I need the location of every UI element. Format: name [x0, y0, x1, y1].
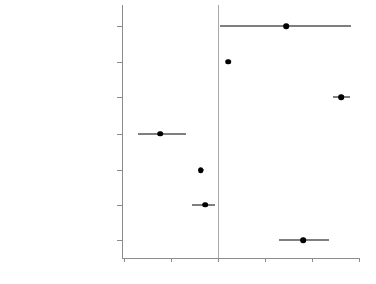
y-axis-tick-mark: [117, 170, 122, 171]
estimate-point-marker: [338, 94, 344, 100]
y-axis-tick-mark: [117, 97, 122, 98]
estimate-point-marker: [203, 202, 209, 208]
x-axis-tick-mark: [171, 258, 172, 262]
x-axis-tick-mark: [218, 258, 219, 262]
y-axis-tick-mark: [117, 62, 122, 63]
estimate-point-marker: [198, 168, 204, 174]
estimate-point-marker: [301, 237, 307, 243]
zero-reference-line: [218, 5, 219, 258]
estimate-point-marker: [225, 59, 231, 65]
y-axis-tick-mark: [117, 205, 122, 206]
x-axis-tick-mark: [265, 258, 266, 262]
y-axis-tick-mark: [117, 26, 122, 27]
estimate-point-marker: [157, 131, 163, 137]
coefficient-plot: [0, 0, 376, 284]
y-axis-tick-mark: [117, 240, 122, 241]
x-axis-tick-mark: [312, 258, 313, 262]
x-axis-tick-mark: [359, 258, 360, 262]
x-axis-line: [122, 258, 359, 259]
y-axis-line: [122, 5, 123, 258]
y-axis-tick-mark: [117, 134, 122, 135]
estimate-point-marker: [284, 23, 290, 29]
x-axis-tick-mark: [124, 258, 125, 262]
